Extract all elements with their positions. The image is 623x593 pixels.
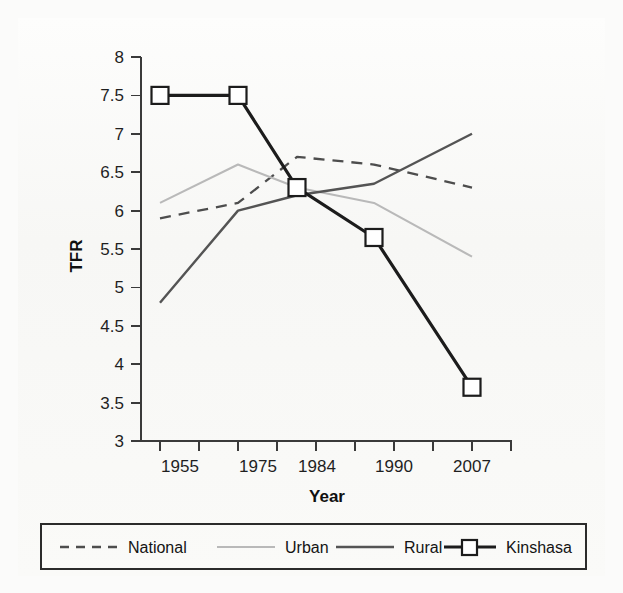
y-axis: 8 7.5 7 6.5 6 5.5 5 4.5 4 3.5 3 TFR (67, 48, 141, 451)
x-tick-label: 2007 (453, 457, 491, 476)
legend-item-national[interactable]: National (60, 539, 187, 556)
x-tick-label: 1990 (375, 457, 413, 476)
legend-item-urban[interactable]: Urban (217, 539, 329, 556)
y-tick-label: 8 (115, 48, 124, 67)
chart-svg: 8 7.5 7 6.5 6 5.5 5 4.5 4 3.5 3 TFR (0, 0, 623, 593)
y-tick-label: 6 (115, 202, 124, 221)
y-tick-label: 5 (115, 278, 124, 297)
data-point-marker-kinshasa (289, 179, 306, 196)
series-layer (152, 87, 481, 396)
legend-label-rural: Rural (404, 539, 442, 556)
legend-label-urban: Urban (285, 539, 329, 556)
series-line-urban (160, 165, 472, 257)
data-point-marker-kinshasa (366, 229, 383, 246)
chart-plot: 8 7.5 7 6.5 6 5.5 5 4.5 4 3.5 3 TFR (0, 0, 623, 593)
x-axis: 1955 1975 1984 1990 2007 Year (141, 441, 512, 506)
y-tick-label: 7.5 (100, 86, 124, 105)
data-point-marker-kinshasa (230, 87, 247, 104)
y-tick-label: 3.5 (100, 394, 124, 413)
figure-container: 8 7.5 7 6.5 6 5.5 5 4.5 4 3.5 3 TFR (0, 0, 623, 593)
y-tick-label: 5.5 (100, 240, 124, 259)
y-tick-label: 4 (115, 355, 124, 374)
y-tick-label: 6.5 (100, 163, 124, 182)
y-tick-label: 3 (115, 432, 124, 451)
legend-item-rural[interactable]: Rural (336, 539, 442, 556)
x-tick-label: 1955 (161, 457, 199, 476)
y-axis-title: TFR (67, 239, 86, 272)
series-line-national (160, 157, 472, 218)
legend: National Urban Rural Kinshasa (41, 524, 586, 569)
data-point-marker-kinshasa (152, 87, 169, 104)
y-tick-label: 7 (115, 125, 124, 144)
data-point-marker-kinshasa (464, 379, 481, 396)
x-axis-title: Year (309, 487, 345, 506)
series-line-kinshasa (160, 95, 472, 387)
legend-item-kinshasa[interactable]: Kinshasa (444, 539, 572, 556)
x-tick-label: 1984 (298, 457, 336, 476)
legend-label-national: National (128, 539, 187, 556)
y-tick-label: 4.5 (100, 317, 124, 336)
legend-label-kinshasa: Kinshasa (506, 539, 572, 556)
x-tick-label: 1975 (239, 457, 277, 476)
legend-marker-square-icon (462, 540, 477, 555)
